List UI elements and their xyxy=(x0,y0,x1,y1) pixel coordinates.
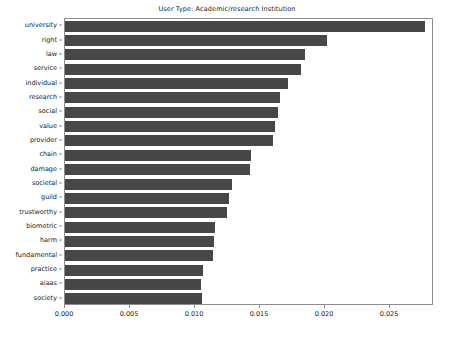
y-tick-mark xyxy=(59,154,62,155)
bar-university xyxy=(65,21,425,32)
bar-service xyxy=(65,64,301,75)
y-tick-label-biometric: biometric xyxy=(26,223,57,230)
y-tick-mark xyxy=(59,125,62,126)
y-tick-mark xyxy=(59,297,62,298)
y-tick-label-harm: harm xyxy=(40,237,57,244)
bar-series xyxy=(65,19,432,304)
y-tick-mark xyxy=(59,25,62,26)
x-tick-label-0.000: 0.000 xyxy=(55,311,74,318)
y-tick-label-chain: chain xyxy=(39,151,57,158)
y-tick-label-university: university xyxy=(25,22,57,29)
bar-fill xyxy=(65,78,288,89)
bar-society xyxy=(65,293,202,304)
x-tick-mark xyxy=(324,305,325,308)
y-axis: universityrightlawserviceindividualresea… xyxy=(0,18,62,305)
bar-fill xyxy=(65,164,250,175)
x-axis: 0.0000.0050.0100.0150.0200.025 xyxy=(64,305,433,325)
bar-fill xyxy=(65,21,425,32)
y-tick-label-guild: guild xyxy=(41,194,57,201)
y-tick-label-law: law xyxy=(46,51,57,58)
bar-fill xyxy=(65,150,251,161)
bar-chart-figure: User Type: Academic/research Institution… xyxy=(0,0,454,338)
y-tick-label-social: social xyxy=(38,108,57,115)
y-tick-label-fundamental: fundamental xyxy=(16,252,57,259)
bar-fill xyxy=(65,250,213,261)
bar-research xyxy=(65,92,280,103)
y-tick-mark xyxy=(59,168,62,169)
bar-law xyxy=(65,49,305,60)
y-tick-label-society: society xyxy=(34,295,57,302)
bar-fill xyxy=(65,236,214,247)
bar-right xyxy=(65,35,327,46)
y-tick-mark xyxy=(59,254,62,255)
y-tick-mark xyxy=(59,139,62,140)
bar-fill xyxy=(65,265,203,276)
y-tick-label-aiaas: aiaas xyxy=(40,280,57,287)
y-tick-label-provider: provider xyxy=(30,137,57,144)
y-tick-mark xyxy=(59,197,62,198)
y-tick-mark xyxy=(59,111,62,112)
y-tick-mark xyxy=(59,269,62,270)
x-tick-mark xyxy=(129,305,130,308)
bar-fill xyxy=(65,293,202,304)
y-tick-mark xyxy=(59,53,62,54)
y-tick-label-research: research xyxy=(29,94,57,101)
y-tick-label-trustworthy: trustworthy xyxy=(19,208,57,215)
y-tick-mark xyxy=(59,283,62,284)
y-tick-mark xyxy=(59,240,62,241)
y-tick-mark xyxy=(59,82,62,83)
y-tick-label-service: service xyxy=(34,65,57,72)
bar-fundamental xyxy=(65,250,213,261)
bar-damage xyxy=(65,164,250,175)
bar-fill xyxy=(65,121,275,132)
x-tick-mark xyxy=(194,305,195,308)
y-tick-label-value: value xyxy=(39,122,57,129)
bar-fill xyxy=(65,222,215,233)
bar-trustworthy xyxy=(65,207,227,218)
x-tick-mark xyxy=(64,305,65,308)
x-tick-label-0.010: 0.010 xyxy=(185,311,204,318)
y-tick-mark xyxy=(59,68,62,69)
bar-fill xyxy=(65,179,232,190)
bar-fill xyxy=(65,49,305,60)
bar-fill xyxy=(65,92,280,103)
y-tick-label-practice: practice xyxy=(31,266,57,273)
y-tick-label-individual: individual xyxy=(25,79,57,86)
x-tick-label-0.020: 0.020 xyxy=(315,311,334,318)
bar-social xyxy=(65,107,278,118)
bar-fill xyxy=(65,107,278,118)
bar-practice xyxy=(65,265,203,276)
bar-fill xyxy=(65,207,227,218)
bar-societal xyxy=(65,179,232,190)
y-tick-mark xyxy=(59,39,62,40)
bar-fill xyxy=(65,35,327,46)
x-tick-mark xyxy=(389,305,390,308)
bar-fill xyxy=(65,64,301,75)
x-tick-label-0.015: 0.015 xyxy=(250,311,269,318)
bar-individual xyxy=(65,78,288,89)
x-tick-mark xyxy=(259,305,260,308)
bar-guild xyxy=(65,193,229,204)
bar-aiaas xyxy=(65,279,201,290)
y-tick-label-damage: damage xyxy=(30,165,57,172)
plot-area xyxy=(64,18,433,305)
y-tick-label-right: right xyxy=(42,36,57,43)
bar-biometric xyxy=(65,222,215,233)
y-tick-mark xyxy=(59,183,62,184)
bar-value xyxy=(65,121,275,132)
bar-chain xyxy=(65,150,251,161)
x-tick-label-0.025: 0.025 xyxy=(380,311,399,318)
y-tick-mark xyxy=(59,96,62,97)
bar-fill xyxy=(65,193,229,204)
y-tick-mark xyxy=(59,211,62,212)
bar-fill xyxy=(65,279,201,290)
y-tick-label-societal: societal xyxy=(32,180,57,187)
bar-harm xyxy=(65,236,214,247)
chart-title: User Type: Academic/research Institution xyxy=(0,5,454,13)
bar-provider xyxy=(65,135,273,146)
x-tick-label-0.005: 0.005 xyxy=(120,311,139,318)
bar-fill xyxy=(65,135,273,146)
y-tick-mark xyxy=(59,226,62,227)
